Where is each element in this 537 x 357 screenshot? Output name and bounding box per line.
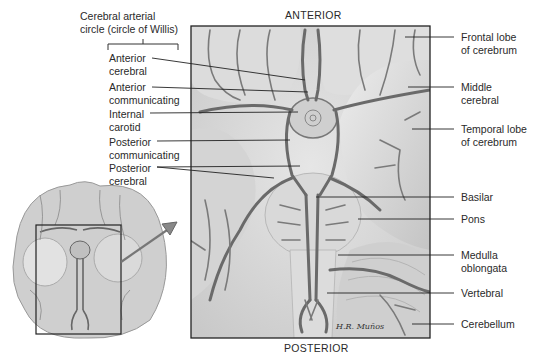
label-line: cerebral <box>109 65 147 78</box>
label-line: communicating <box>109 149 180 162</box>
label-line: Medulla <box>461 249 507 262</box>
label-line: Anterior <box>109 81 180 94</box>
title-line-1: Cerebral arterial <box>80 10 178 23</box>
label-line: Internal <box>109 108 144 121</box>
label-line: Frontal lobe <box>461 31 517 44</box>
label-line: cerebral <box>109 175 151 188</box>
brain-illustration <box>0 0 537 357</box>
label-line: oblongata <box>461 262 507 275</box>
label-line: Posterior <box>109 136 180 149</box>
label-posterior-cerebral: Posterior cerebral <box>109 162 151 187</box>
label-medulla-oblongata: Medulla oblongata <box>461 249 507 274</box>
label-internal-carotid: Internal carotid <box>109 108 144 133</box>
label-line: communicating <box>109 94 180 107</box>
enlarged-view <box>190 26 430 338</box>
label-line: Cerebellum <box>461 318 515 331</box>
label-anterior-communicating: Anterior communicating <box>109 81 180 106</box>
label-line: Middle <box>461 81 499 94</box>
artist-signature: H.R. Muños <box>336 322 384 331</box>
label-middle-cerebral: Middle cerebral <box>461 81 499 106</box>
label-line: Posterior <box>109 162 151 175</box>
circle-of-willis-bracket <box>108 39 178 50</box>
label-line: cerebral <box>461 94 499 107</box>
label-line: Vertebral <box>461 287 503 300</box>
label-anterior-cerebral: Anterior cerebral <box>109 52 147 77</box>
label-vertebral: Vertebral <box>461 287 503 300</box>
anterior-label: ANTERIOR <box>285 9 342 21</box>
label-posterior-communicating: Posterior communicating <box>109 136 180 161</box>
label-temporal-lobe: Temporal lobe of cerebrum <box>461 123 527 148</box>
label-line: Temporal lobe <box>461 123 527 136</box>
label-line: Pons <box>461 213 485 226</box>
circle-of-willis-title: Cerebral arterial circle (circle of Will… <box>80 10 178 35</box>
title-line-2: circle (circle of Willis) <box>80 23 178 36</box>
label-basilar: Basilar <box>461 191 493 204</box>
label-line: of cerebrum <box>461 136 527 149</box>
inset-brain <box>13 182 166 338</box>
label-line: of cerebrum <box>461 44 517 57</box>
posterior-label: POSTERIOR <box>284 342 349 354</box>
label-line: Anterior <box>109 52 147 65</box>
label-pons: Pons <box>461 213 485 226</box>
label-cerebellum: Cerebellum <box>461 318 515 331</box>
label-frontal-lobe: Frontal lobe of cerebrum <box>461 31 517 56</box>
label-line: carotid <box>109 121 144 134</box>
label-line: Basilar <box>461 191 493 204</box>
